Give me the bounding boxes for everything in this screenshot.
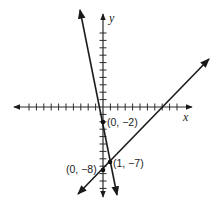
x-axis-label: x [182, 110, 189, 124]
label-point-1-neg7: (1, −7) [113, 157, 144, 169]
line-shallow [78, 59, 209, 194]
y-axis-label: y [108, 11, 115, 25]
point-0-neg2 [101, 120, 106, 125]
point-0-neg8 [101, 168, 106, 173]
coordinate-graph: (0, −2) (0, −8) (1, −7) x y [0, 0, 215, 209]
label-point-0-neg2: (0, −2) [107, 116, 138, 128]
label-point-0-neg8: (0, −8) [66, 163, 97, 175]
point-1-neg7 [108, 160, 113, 165]
